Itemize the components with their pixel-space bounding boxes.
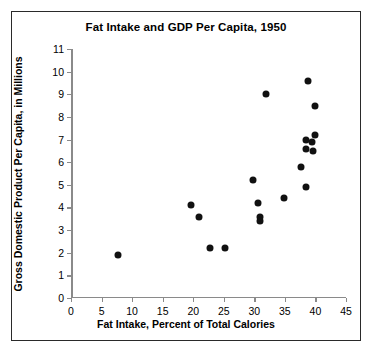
y-tick-label: 11 (53, 43, 64, 55)
data-point (310, 147, 317, 154)
x-tick (254, 298, 255, 302)
x-tick (193, 298, 194, 302)
x-tick (132, 298, 133, 302)
y-tick (67, 253, 71, 254)
y-tick (67, 162, 71, 163)
x-tick (71, 298, 72, 302)
x-tick-label: 35 (279, 305, 291, 317)
y-tick (67, 94, 71, 95)
y-tick-label: 4 (58, 201, 64, 213)
x-tick (163, 298, 164, 302)
x-tick-label: 20 (187, 305, 199, 317)
y-tick-label: 0 (58, 292, 64, 304)
data-point (297, 163, 304, 170)
data-point (115, 251, 122, 258)
y-axis-title-text: Gross Domestic Product Per Capita, in Mi… (12, 56, 24, 291)
x-tick (224, 298, 225, 302)
y-tick-label: 5 (58, 179, 64, 191)
x-tick-label: 40 (310, 305, 322, 317)
data-point (195, 213, 202, 220)
x-tick-label: 30 (248, 305, 260, 317)
y-tick (67, 72, 71, 73)
x-tick-label: 15 (157, 305, 169, 317)
data-point (222, 245, 229, 252)
y-tick (67, 207, 71, 208)
data-point (280, 195, 287, 202)
x-tick-label: 10 (126, 305, 138, 317)
data-point (255, 199, 262, 206)
data-point (311, 102, 318, 109)
x-tick (315, 298, 316, 302)
data-point (262, 91, 269, 98)
y-axis-title: Gross Domestic Product Per Capita, in Mi… (10, 49, 26, 298)
x-tick (102, 298, 103, 302)
y-tick-label: 6 (58, 156, 64, 168)
plot-area: 01234567891011 051015202530354045 (71, 49, 346, 298)
y-tick (67, 230, 71, 231)
x-tick-label: 0 (68, 305, 74, 317)
y-tick-label: 8 (58, 111, 64, 123)
y-tick-label: 10 (52, 66, 64, 78)
data-point (256, 218, 263, 225)
data-point (311, 132, 318, 139)
x-tick-label: 45 (340, 305, 352, 317)
y-tick-label: 7 (58, 134, 64, 146)
y-tick (67, 117, 71, 118)
x-axis-line (71, 297, 346, 299)
data-point (305, 77, 312, 84)
x-tick-label: 25 (218, 305, 230, 317)
y-tick-label: 3 (58, 224, 64, 236)
chart-title: Fat Intake and GDP Per Capita, 1950 (12, 21, 360, 33)
data-point (309, 138, 316, 145)
x-tick (285, 298, 286, 302)
y-tick (67, 49, 71, 50)
x-axis-title: Fat Intake, Percent of Total Calories (12, 318, 360, 330)
y-tick-label: 9 (58, 88, 64, 100)
x-tick (346, 298, 347, 302)
y-tick (67, 140, 71, 141)
x-tick-label: 5 (99, 305, 105, 317)
chart-figure: Fat Intake and GDP Per Capita, 1950 Gros… (11, 11, 361, 341)
y-tick (67, 185, 71, 186)
y-tick-label: 2 (58, 247, 64, 259)
data-point (302, 184, 309, 191)
data-point (187, 202, 194, 209)
y-axis-line (71, 49, 73, 298)
y-tick-label: 1 (58, 269, 64, 281)
y-tick (67, 275, 71, 276)
data-point (250, 177, 257, 184)
data-point (207, 245, 214, 252)
